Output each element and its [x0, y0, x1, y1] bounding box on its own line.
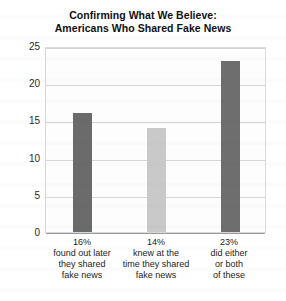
chart-title-line-2: Americans Who Shared Fake News	[0, 22, 286, 35]
x-axis-label-1-line-2: found out later	[45, 248, 119, 259]
plot-area	[45, 47, 266, 233]
x-axis-label-3-line-1: 23%	[192, 237, 266, 248]
gridline-25	[46, 48, 265, 49]
x-axis-label-1-line-3: they shared	[45, 259, 119, 270]
x-axis-label-3: 23%did eitheror bothof these	[192, 237, 266, 281]
y-axis-tick-label-0: 0	[8, 228, 40, 238]
x-axis-label-1: 16%found out laterthey sharedfake news	[45, 237, 119, 281]
x-axis-label-1-line-1: 16%	[45, 237, 119, 248]
x-axis-label-3-line-3: or both	[192, 259, 266, 270]
y-axis-tick-label-15: 15	[8, 116, 40, 126]
x-axis-label-2: 14%knew at thetime they sharedfake news	[119, 237, 193, 281]
x-axis: 16%found out laterthey sharedfake news14…	[45, 237, 266, 297]
x-axis-label-3-line-4: of these	[192, 270, 266, 281]
y-axis-tick-label-5: 5	[8, 191, 40, 201]
y-axis-tick-label-10: 10	[8, 154, 40, 164]
x-axis-label-2-line-3: time they shared	[119, 259, 193, 270]
y-axis-tick-label-25: 25	[8, 42, 40, 52]
y-axis-tick-label-20: 20	[8, 79, 40, 89]
x-axis-label-2-line-4: fake news	[119, 270, 193, 281]
chart-title-line-1: Confirming What We Believe:	[0, 9, 286, 22]
gridline-0	[46, 233, 265, 234]
x-axis-label-2-line-2: knew at the	[119, 248, 193, 259]
bar-2	[147, 128, 166, 232]
x-axis-label-3-line-2: did either	[192, 248, 266, 259]
chart-title: Confirming What We Believe: Americans Wh…	[0, 9, 286, 35]
y-axis: 0510152025	[0, 47, 40, 233]
bar-1	[73, 113, 92, 232]
bar-3	[221, 61, 240, 232]
x-axis-label-1-line-4: fake news	[45, 270, 119, 281]
x-axis-label-2-line-1: 14%	[119, 237, 193, 248]
